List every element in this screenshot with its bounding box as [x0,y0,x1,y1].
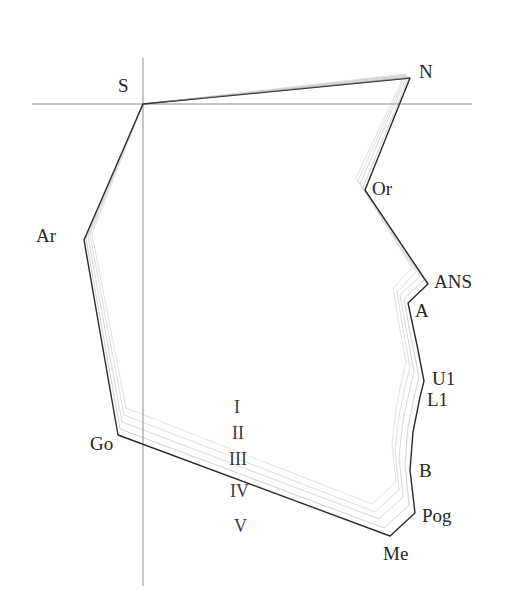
landmark-label-S: S [118,76,129,95]
landmark-label-ANS: ANS [434,272,472,291]
landmark-label-U1: U1 [432,369,455,388]
stage-iii-outline [88,76,420,519]
landmark-label-Or: Or [372,179,392,198]
landmark-label-A: A [415,301,429,320]
stage-marker-II: II [232,424,244,442]
landmark-label-N: N [419,62,433,81]
landmark-label-Go: Go [90,434,113,453]
stage-marker-V: V [234,517,247,535]
landmark-label-B: B [419,461,432,480]
landmark-label-Pog: Pog [422,506,452,525]
stage-iv-outline [86,77,424,528]
stage-ii-outline [90,75,416,512]
stage-i-outline [92,74,412,504]
stage-marker-IV: IV [230,482,249,500]
sn-hatch-band [143,74,410,104]
cephalometric-figure: S N Or ANS A U1 L1 B Pog Me Go Ar I II I… [0,0,505,599]
stage-marker-I: I [234,398,240,416]
landmark-label-Me: Me [383,544,408,563]
landmark-label-L1: L1 [427,390,448,409]
stage-marker-III: III [229,450,247,468]
ghost-outline-group [86,74,424,528]
landmark-label-Ar: Ar [36,226,56,245]
